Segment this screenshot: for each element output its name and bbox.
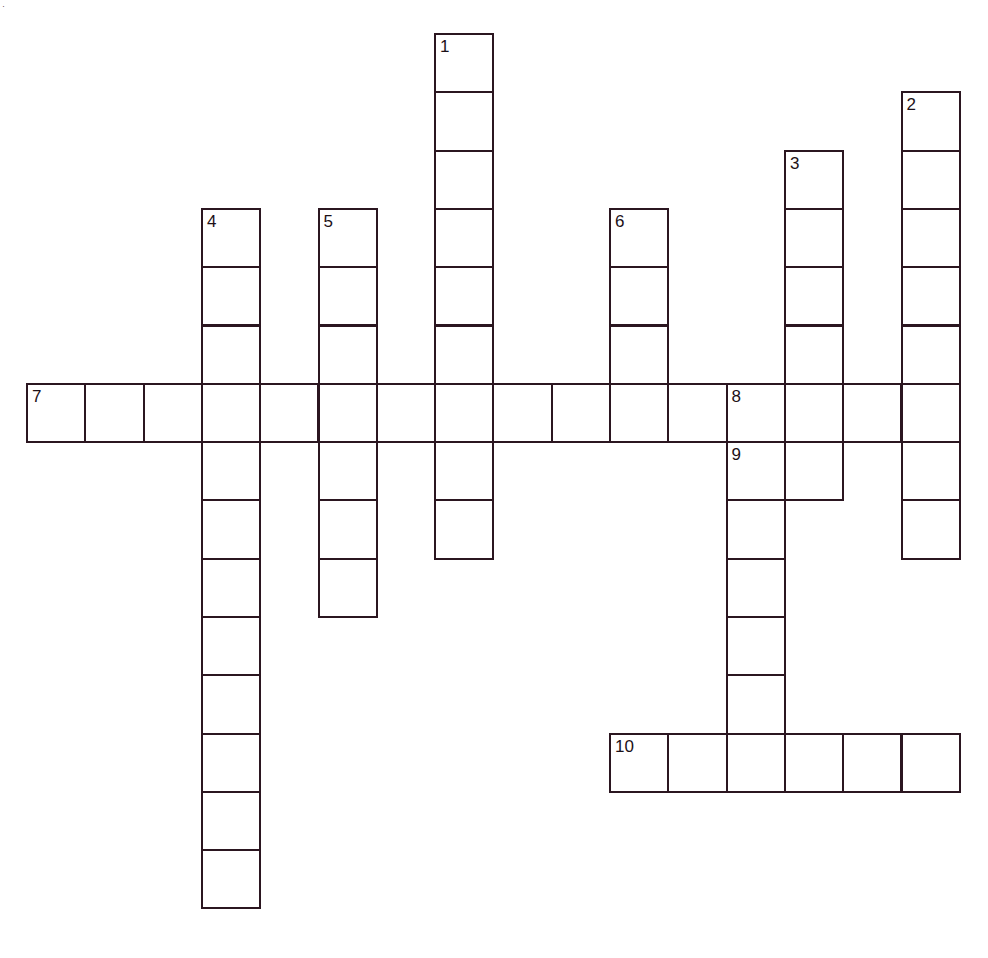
crossword-cell[interactable]: [201, 325, 261, 385]
crossword-cell[interactable]: [376, 383, 436, 443]
crossword-cell[interactable]: [26, 383, 86, 443]
crossword-cell[interactable]: [201, 266, 261, 326]
crossword-cell[interactable]: [901, 383, 961, 443]
crossword-cell[interactable]: [84, 383, 144, 443]
crossword-cell[interactable]: [259, 383, 319, 443]
crossword-cell[interactable]: [201, 674, 261, 734]
crossword-cell[interactable]: [551, 383, 611, 443]
crossword-cell[interactable]: [609, 266, 669, 326]
crossword-cell[interactable]: [726, 441, 786, 501]
crossword-cell[interactable]: [667, 733, 727, 793]
crossword-puzzle-grid: · 12345678910: [0, 0, 988, 958]
crossword-cell[interactable]: [901, 325, 961, 385]
crossword-cell[interactable]: [901, 499, 961, 559]
crossword-cell[interactable]: [318, 208, 378, 268]
crossword-cell[interactable]: [726, 616, 786, 676]
crossword-cell[interactable]: [434, 150, 494, 210]
crossword-cell[interactable]: [434, 499, 494, 559]
crossword-cell[interactable]: [201, 499, 261, 559]
crossword-cell[interactable]: [609, 325, 669, 385]
crossword-cell[interactable]: [201, 616, 261, 676]
crossword-cell[interactable]: [726, 674, 786, 734]
crossword-cells-layer: 12345678910: [0, 0, 988, 958]
crossword-cell[interactable]: [901, 266, 961, 326]
crossword-cell[interactable]: [201, 208, 261, 268]
crossword-cell[interactable]: [434, 33, 494, 93]
crossword-cell[interactable]: [726, 499, 786, 559]
crossword-cell[interactable]: [784, 266, 844, 326]
crossword-cell[interactable]: [201, 558, 261, 618]
crossword-cell[interactable]: [201, 733, 261, 793]
crossword-cell[interactable]: [318, 266, 378, 326]
crossword-cell[interactable]: [726, 558, 786, 618]
crossword-cell[interactable]: [201, 791, 261, 851]
crossword-cell[interactable]: [901, 441, 961, 501]
crossword-cell[interactable]: [434, 91, 494, 151]
crossword-cell[interactable]: [492, 383, 552, 443]
crossword-cell[interactable]: [609, 733, 669, 793]
crossword-cell[interactable]: [434, 441, 494, 501]
crossword-cell[interactable]: [434, 383, 494, 443]
crossword-cell[interactable]: [784, 208, 844, 268]
crossword-cell[interactable]: [318, 558, 378, 618]
crossword-cell[interactable]: [667, 383, 727, 443]
crossword-cell[interactable]: [842, 383, 902, 443]
crossword-cell[interactable]: [784, 150, 844, 210]
crossword-cell[interactable]: [318, 441, 378, 501]
crossword-cell[interactable]: [784, 441, 844, 501]
crossword-cell[interactable]: [434, 325, 494, 385]
crossword-cell[interactable]: [784, 733, 844, 793]
crossword-cell[interactable]: [726, 733, 786, 793]
crossword-cell[interactable]: [901, 733, 961, 793]
crossword-cell[interactable]: [901, 91, 961, 151]
crossword-cell[interactable]: [434, 266, 494, 326]
crossword-cell[interactable]: [609, 383, 669, 443]
crossword-cell[interactable]: [901, 150, 961, 210]
crossword-cell[interactable]: [842, 733, 902, 793]
crossword-cell[interactable]: [201, 441, 261, 501]
crossword-cell[interactable]: [726, 383, 786, 443]
crossword-cell[interactable]: [434, 208, 494, 268]
crossword-cell[interactable]: [318, 499, 378, 559]
crossword-cell[interactable]: [784, 383, 844, 443]
crossword-cell[interactable]: [201, 383, 261, 443]
crossword-cell[interactable]: [201, 849, 261, 909]
crossword-cell[interactable]: [318, 383, 378, 443]
crossword-cell[interactable]: [609, 208, 669, 268]
crossword-cell[interactable]: [143, 383, 203, 443]
crossword-cell[interactable]: [318, 325, 378, 385]
crossword-cell[interactable]: [901, 208, 961, 268]
crossword-cell[interactable]: [784, 325, 844, 385]
